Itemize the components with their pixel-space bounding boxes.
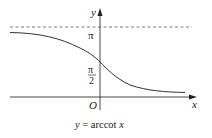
tick-half-pi-denominator: 2 [89,75,94,86]
x-axis-label: x [191,98,197,110]
caption-x: x [118,119,124,130]
caption: y = arccot x [74,119,124,130]
arccot-curve [10,33,185,93]
caption-eq: = arccot [80,119,119,130]
tick-half-pi-numerator: π [88,64,93,75]
y-axis-arrow-icon [98,8,103,16]
tick-pi-label: π [88,29,94,41]
arccot-graph: y x O π π 2 y = arccot x [0,0,212,138]
origin-label: O [89,99,97,111]
y-axis-label: y [90,6,96,18]
